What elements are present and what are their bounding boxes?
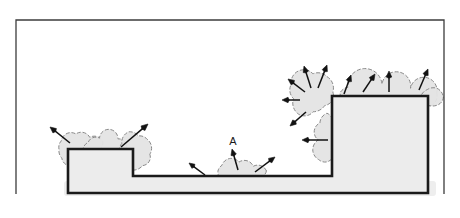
- flux-arrow-3-head: [189, 163, 195, 168]
- point-label-a: A: [229, 135, 237, 147]
- figure-canvas: A: [0, 0, 460, 218]
- flux-arrow-7-head: [290, 120, 296, 126]
- flux-arrow-15-head: [423, 69, 428, 76]
- flux-arrow-10-head: [303, 66, 308, 73]
- flux-arrow-14-head: [386, 71, 392, 78]
- flux-arrow-4-head: [231, 149, 236, 156]
- flux-arrow-3-shaft: [193, 166, 205, 175]
- flux-arrow-8-head: [282, 97, 289, 103]
- flux-arrow-2-head: [141, 124, 148, 130]
- flux-arrow-11-head: [322, 65, 327, 72]
- label-layer: A: [229, 135, 237, 147]
- figure-root: A: [0, 0, 460, 218]
- flux-arrow-12-head: [346, 75, 351, 82]
- flux-arrow-1-head: [50, 127, 56, 133]
- flux-arrow-6-head: [302, 137, 309, 143]
